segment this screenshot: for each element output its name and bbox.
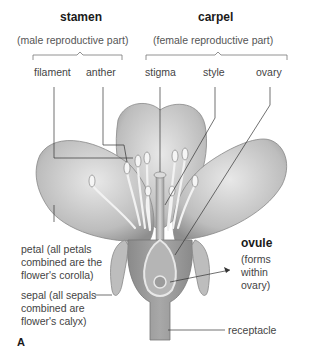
sepal-label: sepal (all sepals combined are flower's …: [21, 289, 96, 328]
sepal-left: [111, 240, 128, 295]
ovule: [154, 276, 166, 288]
receptacle-label: receptacle: [228, 324, 276, 336]
filament-label: filament: [34, 66, 71, 78]
stigma-label: stigma: [145, 66, 176, 78]
style-label: style: [203, 66, 225, 78]
sepal-right: [192, 240, 209, 295]
anther-label: anther: [86, 66, 116, 78]
stamen-subtitle: (male reproductive part): [17, 34, 128, 46]
ovule-desc: (forms within ovary): [241, 253, 271, 292]
ovule-title: ovule: [241, 236, 272, 250]
petal-label: petal (all petals combined are the flowe…: [21, 243, 102, 282]
stamen-title: stamen: [60, 10, 102, 24]
carpel-title: carpel: [198, 10, 233, 24]
carpel-subtitle: (female reproductive part): [153, 34, 273, 46]
ovary-label: ovary: [256, 66, 282, 78]
panel-letter: A: [17, 336, 25, 348]
